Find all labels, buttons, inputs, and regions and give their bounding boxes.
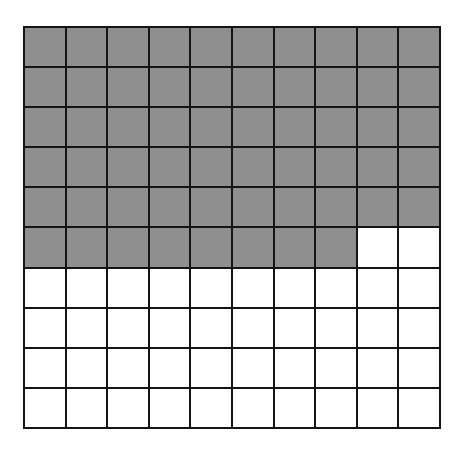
- shaded-cell: [25, 188, 65, 226]
- unshaded-cell: [191, 269, 231, 307]
- shaded-cell: [316, 228, 356, 266]
- unshaded-cell: [67, 349, 107, 387]
- shaded-cell: [67, 68, 107, 106]
- unshaded-cell: [67, 309, 107, 347]
- shaded-cell: [108, 28, 148, 66]
- shaded-cell: [150, 188, 190, 226]
- shaded-cell: [150, 28, 190, 66]
- unshaded-cell: [358, 389, 398, 427]
- shaded-cell: [358, 148, 398, 186]
- unshaded-cell: [233, 309, 273, 347]
- unshaded-cell: [316, 349, 356, 387]
- shaded-cell: [233, 28, 273, 66]
- shaded-cell: [399, 108, 439, 146]
- shaded-cell: [399, 68, 439, 106]
- shaded-cell: [25, 228, 65, 266]
- shaded-cell: [150, 148, 190, 186]
- shaded-cell: [25, 68, 65, 106]
- shaded-cell: [275, 188, 315, 226]
- shaded-cell: [191, 28, 231, 66]
- shaded-cell: [399, 28, 439, 66]
- unshaded-cell: [67, 389, 107, 427]
- unshaded-cell: [25, 349, 65, 387]
- unshaded-cell: [275, 349, 315, 387]
- shaded-cell: [275, 28, 315, 66]
- shaded-cell: [191, 148, 231, 186]
- unshaded-cell: [191, 389, 231, 427]
- shaded-cell: [399, 148, 439, 186]
- unshaded-cell: [399, 309, 439, 347]
- unshaded-cell: [316, 309, 356, 347]
- unshaded-cell: [275, 389, 315, 427]
- unshaded-cell: [399, 269, 439, 307]
- unshaded-cell: [275, 309, 315, 347]
- shaded-cell: [108, 108, 148, 146]
- shaded-cell: [358, 108, 398, 146]
- unshaded-cell: [399, 349, 439, 387]
- shaded-cell: [358, 188, 398, 226]
- shaded-cell: [316, 108, 356, 146]
- unshaded-cell: [399, 228, 439, 266]
- unshaded-cell: [191, 349, 231, 387]
- shaded-cell: [150, 228, 190, 266]
- unshaded-cell: [233, 389, 273, 427]
- shaded-cell: [316, 28, 356, 66]
- unshaded-cell: [150, 389, 190, 427]
- shaded-cell: [191, 228, 231, 266]
- shaded-cell: [108, 148, 148, 186]
- shaded-cell: [233, 68, 273, 106]
- shaded-cell: [316, 188, 356, 226]
- shaded-cell: [108, 68, 148, 106]
- unshaded-cell: [191, 309, 231, 347]
- shaded-cell: [191, 68, 231, 106]
- shaded-cell: [67, 228, 107, 266]
- shaded-cell: [316, 68, 356, 106]
- shaded-cell: [67, 108, 107, 146]
- unshaded-cell: [233, 349, 273, 387]
- shaded-cell: [275, 228, 315, 266]
- shaded-cell: [150, 108, 190, 146]
- unshaded-cell: [316, 389, 356, 427]
- unshaded-cell: [358, 228, 398, 266]
- shaded-cell: [275, 148, 315, 186]
- unshaded-cell: [233, 269, 273, 307]
- unshaded-cell: [25, 389, 65, 427]
- unshaded-cell: [150, 309, 190, 347]
- shaded-cell: [399, 188, 439, 226]
- shaded-cell: [233, 148, 273, 186]
- unshaded-cell: [150, 349, 190, 387]
- shaded-cell: [150, 68, 190, 106]
- shaded-cell: [67, 28, 107, 66]
- unshaded-cell: [399, 389, 439, 427]
- shaded-cell: [233, 228, 273, 266]
- unshaded-cell: [25, 269, 65, 307]
- unshaded-cell: [150, 269, 190, 307]
- shaded-cell: [191, 188, 231, 226]
- unshaded-cell: [108, 349, 148, 387]
- shaded-cell: [25, 108, 65, 146]
- shaded-cell: [25, 148, 65, 186]
- shaded-cell: [358, 28, 398, 66]
- shaded-cell: [316, 148, 356, 186]
- unshaded-cell: [108, 309, 148, 347]
- unshaded-cell: [108, 269, 148, 307]
- unshaded-cell: [358, 269, 398, 307]
- shaded-cell: [67, 188, 107, 226]
- unshaded-cell: [108, 389, 148, 427]
- shaded-cell: [275, 68, 315, 106]
- shaded-cell: [25, 28, 65, 66]
- shaded-cell: [108, 188, 148, 226]
- unshaded-cell: [316, 269, 356, 307]
- unshaded-cell: [25, 309, 65, 347]
- unshaded-cell: [358, 309, 398, 347]
- shaded-cell: [233, 108, 273, 146]
- shaded-cell: [67, 148, 107, 186]
- shaded-cell: [275, 108, 315, 146]
- hundred-grid: [23, 26, 441, 429]
- shaded-cell: [358, 68, 398, 106]
- unshaded-cell: [358, 349, 398, 387]
- unshaded-cell: [275, 269, 315, 307]
- shaded-cell: [233, 188, 273, 226]
- shaded-cell: [108, 228, 148, 266]
- unshaded-cell: [67, 269, 107, 307]
